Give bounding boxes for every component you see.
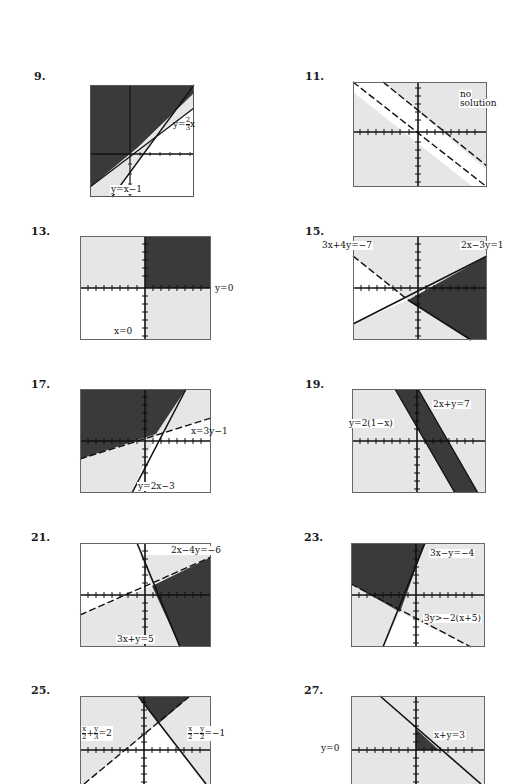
equation-label: 3x+y=5 xyxy=(116,635,155,644)
graph-problem-23: 3x−y=−4 3y>−2(x+5) xyxy=(351,543,485,647)
graph-9-canvas xyxy=(90,85,194,197)
equation-label: 3y>−2(x+5) xyxy=(423,614,482,623)
rhs: =2 xyxy=(98,728,111,738)
equation-label: 2x−4y=−6 xyxy=(170,546,222,555)
graph-problem-13: y=0 x=0 xyxy=(80,236,211,340)
no-solution-label-line2: solution xyxy=(459,99,497,108)
graph-15-canvas xyxy=(353,236,487,340)
graph-problem-21: 2x−4y=−6 3x+y=5 xyxy=(80,543,211,647)
equation-label: x+y=3 xyxy=(433,731,466,740)
graph-21-canvas xyxy=(80,543,211,647)
problem-number-13: 13. xyxy=(31,225,50,238)
equation-label: y=0 xyxy=(320,744,340,753)
graph-17-canvas xyxy=(80,389,211,493)
problem-number-11: 11. xyxy=(305,70,324,83)
graph-13-canvas xyxy=(80,236,211,340)
equation-label: x=3y−1 xyxy=(190,427,229,436)
equation-label: y=23x xyxy=(172,117,196,132)
operator: − xyxy=(192,728,200,738)
graph-problem-27: y=0 x+y=3 xyxy=(351,696,485,784)
graph-23-canvas xyxy=(351,543,485,647)
graph-problem-11: no solution xyxy=(353,82,487,187)
equation-label: 3x+4y=−7 xyxy=(321,241,373,250)
equation-label: 2x−3y=1 xyxy=(460,241,504,250)
graph-problem-25: x2+y3=2 x2−y2=−1 xyxy=(80,696,211,784)
problem-number-25: 25. xyxy=(31,684,50,697)
graph-problem-17: x=3y−1 y=2x−3 xyxy=(80,389,211,493)
graph-problem-15: 3x+4y=−7 2x−3y=1 xyxy=(353,236,487,340)
problem-number-27: 27. xyxy=(304,684,323,697)
label-part: x xyxy=(190,119,195,129)
equation-label: y=0 xyxy=(214,284,234,293)
equation-label: 2x+y=7 xyxy=(432,400,471,409)
rhs: =−1 xyxy=(204,728,225,738)
equation-label: y=2x−3 xyxy=(137,482,176,491)
equation-label-fraction: x2−y2=−1 xyxy=(187,726,226,741)
equation-label: x=0 xyxy=(113,327,133,336)
equation-label: y=2(1−x) xyxy=(348,419,394,428)
problem-number-17: 17. xyxy=(31,378,50,391)
graph-27-canvas xyxy=(351,696,485,784)
graph-problem-19: 2x+y=7 y=2(1−x) xyxy=(352,389,486,493)
equation-label: y=x−1 xyxy=(110,185,143,194)
label-part: y= xyxy=(173,119,186,129)
problem-number-9: 9. xyxy=(34,70,45,83)
operator: + xyxy=(86,728,94,738)
problem-number-23: 23. xyxy=(304,531,323,544)
equation-label-fraction: x2+y3=2 xyxy=(81,726,113,741)
equation-label: 3x−y=−4 xyxy=(429,549,475,558)
problem-number-15: 15. xyxy=(305,225,324,238)
graph-problem-9: y=x−1 y=23x xyxy=(90,85,194,197)
problem-number-19: 19. xyxy=(305,378,324,391)
problem-number-21: 21. xyxy=(31,531,50,544)
